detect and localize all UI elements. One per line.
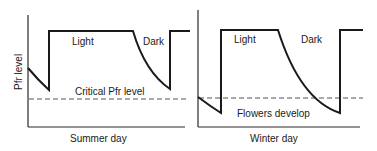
summer-x-label: Summer day xyxy=(70,133,127,144)
critical-pfr-label: Critical Pfr level xyxy=(75,86,144,97)
flowers-develop-label: Flowers develop xyxy=(237,108,310,119)
winter-dark-label: Dark xyxy=(301,34,323,45)
pfr-diagram: Light Dark Critical Pfr level Summer day… xyxy=(0,0,377,151)
y-axis-label: Pfr level xyxy=(13,54,24,90)
summer-pfr-curve xyxy=(28,31,190,90)
winter-x-label: Winter day xyxy=(250,133,298,144)
winter-panel: Light Dark Flowers develop Winter day xyxy=(198,10,363,144)
summer-dark-label: Dark xyxy=(143,36,165,47)
winter-pfr-curve xyxy=(198,30,363,113)
summer-panel: Light Dark Critical Pfr level Summer day… xyxy=(13,15,190,144)
winter-light-label: Light xyxy=(234,34,256,45)
summer-light-label: Light xyxy=(72,36,94,47)
